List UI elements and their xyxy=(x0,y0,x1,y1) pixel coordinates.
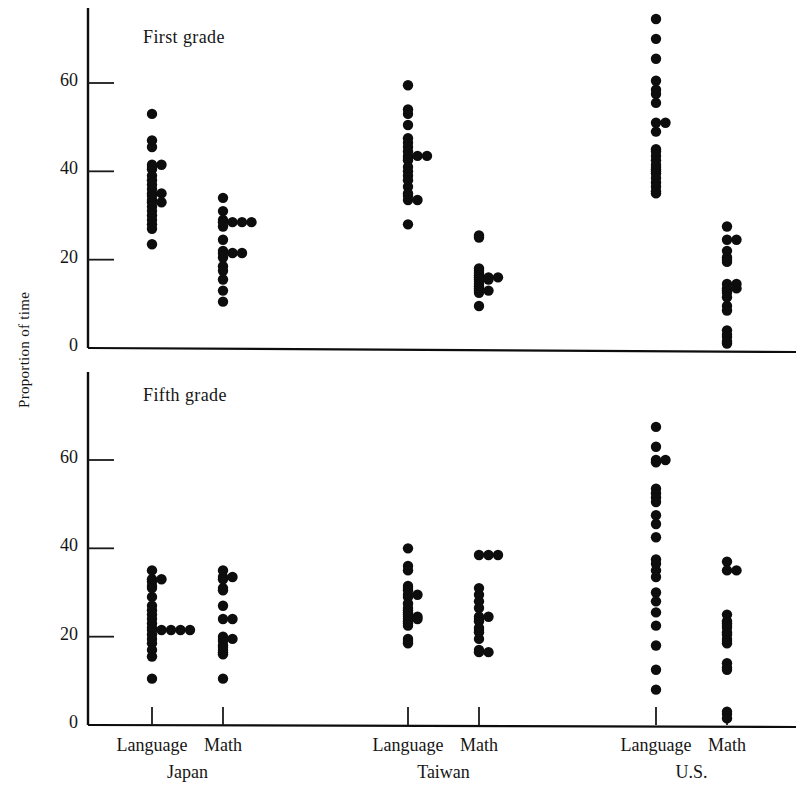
data-point xyxy=(483,550,493,560)
data-point xyxy=(156,197,166,207)
data-point xyxy=(403,195,413,205)
data-point xyxy=(218,285,228,295)
data-point xyxy=(156,574,166,584)
data-point xyxy=(474,232,484,242)
data-point xyxy=(651,497,661,507)
data-point xyxy=(722,235,732,245)
data-point xyxy=(474,301,484,311)
data-point xyxy=(483,647,493,657)
data-point xyxy=(651,607,661,617)
data-point xyxy=(651,684,661,694)
y-tick-label-0: 0 xyxy=(34,335,78,356)
data-point xyxy=(218,673,228,683)
y-tick-label-60: 60 xyxy=(34,70,78,91)
data-point xyxy=(651,640,661,650)
data-point xyxy=(651,54,661,64)
data-point xyxy=(218,601,228,611)
zero-baseline-0 xyxy=(88,348,796,352)
country-label-0: Japan xyxy=(128,762,248,783)
data-point xyxy=(422,151,432,161)
data-point xyxy=(218,296,228,306)
data-point xyxy=(403,620,413,630)
data-point xyxy=(722,665,732,675)
data-point xyxy=(722,221,732,231)
data-point xyxy=(147,224,157,234)
data-point xyxy=(218,649,228,659)
data-point xyxy=(722,638,732,648)
data-point xyxy=(493,550,503,560)
data-point xyxy=(722,305,732,315)
data-point xyxy=(651,665,661,675)
data-point xyxy=(731,283,741,293)
data-point xyxy=(722,257,732,267)
data-point xyxy=(651,126,661,136)
data-point xyxy=(483,274,493,284)
data-point xyxy=(412,195,422,205)
data-point xyxy=(403,120,413,130)
data-point xyxy=(156,160,166,170)
x-label-math-1: Math xyxy=(439,735,519,756)
x-label-math-2: Math xyxy=(687,735,767,756)
data-point xyxy=(237,217,247,227)
data-point xyxy=(651,422,661,432)
data-point xyxy=(147,109,157,119)
data-point xyxy=(218,274,228,284)
zero-baseline-1 xyxy=(88,725,796,727)
data-point xyxy=(218,221,228,231)
data-point xyxy=(483,285,493,295)
data-point xyxy=(493,272,503,282)
data-point xyxy=(185,625,195,635)
data-point xyxy=(147,239,157,249)
data-point xyxy=(403,219,413,229)
y-tick-label-60: 60 xyxy=(34,447,78,468)
data-point xyxy=(651,14,661,24)
y-tick-label-20: 20 xyxy=(34,247,78,268)
data-point xyxy=(403,80,413,90)
data-point xyxy=(651,596,661,606)
data-point xyxy=(412,614,422,624)
data-point xyxy=(722,713,732,723)
data-point xyxy=(651,532,661,542)
plot-marks xyxy=(88,8,796,727)
data-point xyxy=(651,34,661,44)
data-point xyxy=(227,572,237,582)
data-point xyxy=(403,638,413,648)
data-point xyxy=(218,235,228,245)
data-point xyxy=(227,634,237,644)
data-point xyxy=(660,455,670,465)
data-point xyxy=(147,673,157,683)
data-point xyxy=(166,625,176,635)
data-point xyxy=(246,217,256,227)
data-point xyxy=(651,620,661,630)
data-point xyxy=(147,651,157,661)
data-point xyxy=(403,543,413,553)
data-point xyxy=(412,590,422,600)
data-point xyxy=(227,614,237,624)
data-point xyxy=(147,142,157,152)
data-point xyxy=(227,248,237,258)
country-label-1: Taiwan xyxy=(384,762,504,783)
data-point xyxy=(403,109,413,119)
data-point xyxy=(175,625,185,635)
data-point xyxy=(218,614,228,624)
y-tick-label-20: 20 xyxy=(34,624,78,645)
data-point xyxy=(722,565,732,575)
x-label-math-0: Math xyxy=(183,735,263,756)
data-point xyxy=(731,565,741,575)
data-point xyxy=(227,217,237,227)
data-point xyxy=(651,572,661,582)
data-point xyxy=(156,625,166,635)
data-point xyxy=(651,457,661,467)
data-point xyxy=(651,98,661,108)
dot-plot-figure: Proportion of time First grade Fifth gra… xyxy=(0,0,796,790)
data-point xyxy=(483,612,493,622)
data-point xyxy=(474,288,484,298)
y-tick-label-0: 0 xyxy=(34,712,78,733)
data-point xyxy=(218,193,228,203)
y-tick-label-40: 40 xyxy=(34,535,78,556)
data-point xyxy=(651,519,661,529)
data-point xyxy=(403,565,413,575)
data-point xyxy=(237,248,247,258)
data-point xyxy=(722,338,732,348)
data-point xyxy=(474,550,484,560)
